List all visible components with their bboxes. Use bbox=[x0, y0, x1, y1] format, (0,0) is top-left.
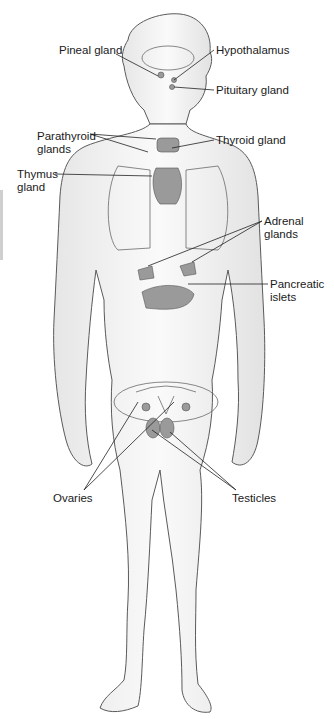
scan-edge-artifact bbox=[0, 190, 3, 260]
label-ovaries: Ovaries bbox=[53, 492, 93, 505]
label-pituitary: Pituitary gland bbox=[216, 84, 289, 97]
label-testicles: Testicles bbox=[232, 492, 276, 505]
label-pineal: Pineal gland bbox=[59, 44, 122, 57]
label-hypothalamus: Hypothalamus bbox=[216, 44, 290, 57]
label-thymus: Thymus gland bbox=[17, 168, 58, 194]
label-adrenal: Adrenal glands bbox=[264, 215, 304, 241]
endocrine-diagram: Pineal glandHypothalamusPituitary glandP… bbox=[0, 0, 334, 719]
body-outline bbox=[54, 14, 265, 713]
label-parathyroid: Parathyroid glands bbox=[37, 130, 96, 156]
label-thyroid: Thyroid gland bbox=[216, 134, 286, 147]
body-illustration bbox=[0, 0, 334, 719]
label-pancreatic: Pancreatic islets bbox=[270, 278, 324, 304]
